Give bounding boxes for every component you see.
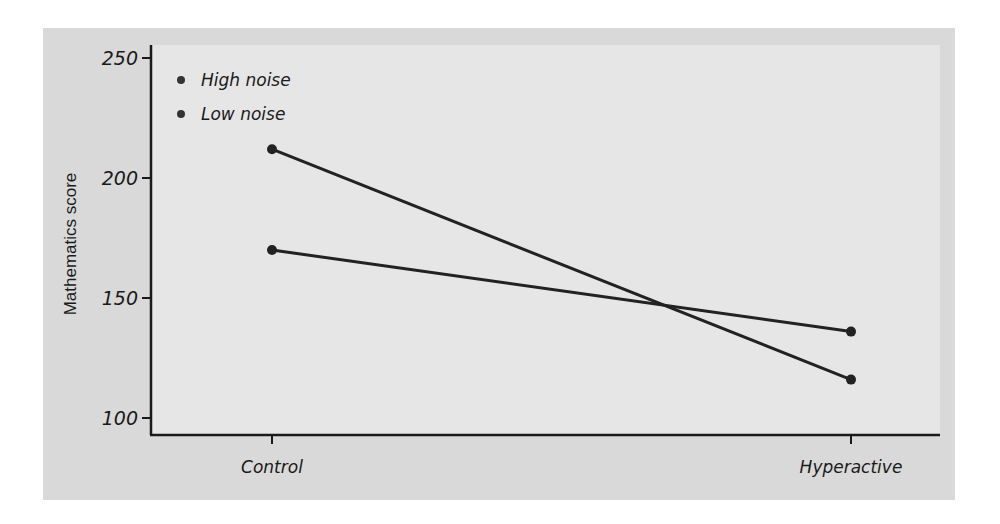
legend-label: Low noise (201, 104, 285, 124)
legend-label: High noise (201, 70, 291, 90)
y-tick-label: 200 (102, 167, 138, 189)
data-point (846, 327, 856, 337)
data-point (267, 144, 277, 154)
y-tick-label: 150 (102, 287, 138, 309)
legend-marker (177, 76, 185, 84)
data-point (846, 375, 856, 385)
x-tick-label: Control (241, 457, 303, 477)
line-chart: 100150200250ControlHyperactive High nois… (0, 0, 1000, 524)
x-tick-label: Hyperactive (800, 457, 903, 477)
legend-marker (177, 110, 185, 118)
y-tick-label: 100 (102, 407, 138, 429)
y-tick-label: 250 (102, 47, 138, 69)
data-point (267, 245, 277, 255)
y-axis-title: Mathematics score (61, 173, 80, 316)
